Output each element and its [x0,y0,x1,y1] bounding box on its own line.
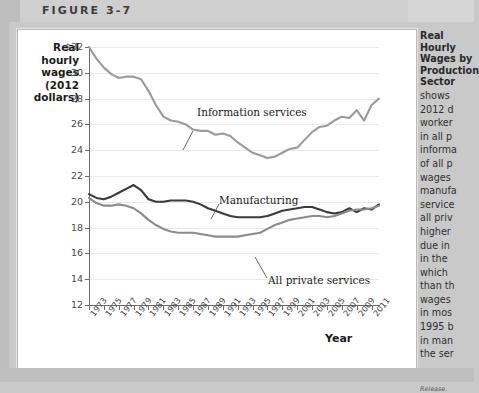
sidebar-body-line: than th [420,279,476,293]
y-axis-tick-label: 28 [43,93,83,104]
y-axis-tick-label: 16 [43,247,83,258]
sidebar-body-line: shows [420,89,476,103]
chart-plot-area: $3230282624222018161412 1973197519771979… [89,47,379,305]
y-axis-tick-label: 24 [43,144,83,155]
y-axis-caption-line-4: (2012 [17,79,79,92]
sidebar-body-line: all priv [420,211,476,225]
sidebar-title-line-1: Real Hourly Wages by [420,30,476,65]
y-axis-tick-label: 30 [43,67,83,78]
series-label-information-services: Information services [197,106,307,118]
y-axis-tick-label: 20 [43,196,83,207]
sidebar-body-line: higher [420,225,476,239]
y-axis-tick-label: 18 [43,222,83,233]
sidebar-body-line: in man [420,334,476,348]
sidebar-body: shows2012 dworkerin all pinformaof all p… [420,89,476,361]
y-axis-tick-label: 26 [43,118,83,129]
sidebar-body-line: service [420,198,476,212]
figure-header-band: FIGURE 3-7 [0,0,474,22]
y-axis-tick-label: $32 [43,41,83,52]
x-axis-title: Year [325,332,352,345]
sidebar-body-line: 2012 d [420,103,476,117]
page-left-rail [0,22,9,368]
sidebar-body-line: which [420,266,476,280]
sidebar-body-line: wages [420,293,476,307]
page-bottom-band [0,368,474,382]
sidebar-body-line: informa [420,143,476,157]
sidebar-body-line: in the [420,252,476,266]
sidebar-body-line: 1995 b [420,320,476,334]
sidebar-body-line: manufa [420,184,476,198]
figure-number-label: FIGURE 3-7 [42,4,132,17]
y-axis-tick-label: 14 [43,273,83,284]
sidebar-title: Real Hourly Wages by Production Sector [420,30,476,88]
sidebar-annotation: Real Hourly Wages by Production Sector s… [420,30,476,393]
sidebar-body-line: in mos [420,306,476,320]
y-axis-tick-label: 22 [43,170,83,181]
sidebar-body-line: the ser [420,347,476,361]
y-axis-caption-line-2: hourly [17,54,79,67]
annotation-leader-layer [89,47,379,305]
sidebar-body-line: worker [420,116,476,130]
figure-header-edge [0,0,20,22]
sidebar-body-line: of all p [420,157,476,171]
series-label-manufacturing: Manufacturing [219,194,298,206]
sidebar-body-line: in all p [420,130,476,144]
sidebar-body-line: wages [420,171,476,185]
sidebar-title-line-2: Production Sector [420,65,476,88]
sidebar-source-line: Release. [420,385,476,393]
sidebar-body-line: due in [420,239,476,253]
y-axis-tick-label: 12 [43,299,83,310]
series-label-all-private-services: All private services [268,274,370,286]
